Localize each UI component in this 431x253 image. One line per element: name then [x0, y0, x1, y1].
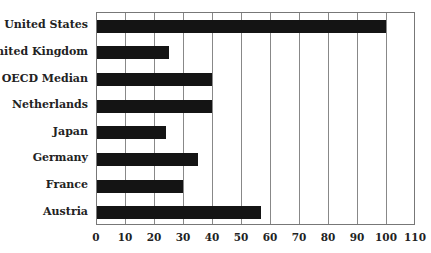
- plot-area: [96, 12, 415, 225]
- x-tick-label: 90: [350, 231, 365, 243]
- gridline: [299, 13, 300, 224]
- bar: [97, 126, 166, 139]
- bar: [97, 206, 261, 219]
- x-tick-label: 70: [292, 231, 307, 243]
- x-tick-label: 80: [321, 231, 336, 243]
- bar: [97, 73, 212, 86]
- x-tick-label: 20: [147, 231, 162, 243]
- category-label: United States: [4, 19, 88, 31]
- gridline: [270, 13, 271, 224]
- category-label: France: [46, 179, 88, 191]
- gridline: [212, 13, 213, 224]
- x-tick-label: 100: [375, 231, 397, 243]
- category-label: United Kingdom: [0, 46, 88, 58]
- gridline: [241, 13, 242, 224]
- x-tick-label: 30: [176, 231, 191, 243]
- gridline: [386, 13, 387, 224]
- category-label: Japan: [53, 126, 88, 138]
- category-label: Netherlands: [12, 99, 88, 111]
- x-tick-label: 0: [92, 231, 99, 243]
- horizontal-bar-chart: United StatesUnited KingdomOECD MedianNe…: [0, 0, 431, 253]
- category-label: OECD Median: [2, 73, 88, 85]
- x-tick-label: 60: [263, 231, 278, 243]
- bar: [97, 20, 386, 33]
- x-tick-label: 10: [118, 231, 133, 243]
- bar: [97, 100, 212, 113]
- bar: [97, 46, 169, 59]
- bar: [97, 153, 198, 166]
- gridline: [357, 13, 358, 224]
- x-tick-label: 40: [205, 231, 220, 243]
- category-label: Austria: [43, 206, 88, 218]
- gridline: [328, 13, 329, 224]
- bar: [97, 180, 183, 193]
- x-tick-label: 110: [404, 231, 426, 243]
- category-label: Germany: [33, 152, 88, 164]
- gridline: [183, 13, 184, 224]
- x-tick-label: 50: [234, 231, 249, 243]
